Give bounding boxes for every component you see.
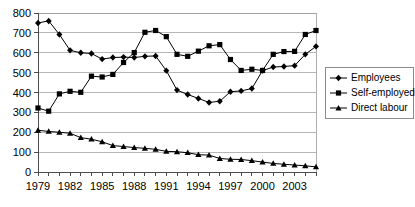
data-point-0-6 (99, 56, 105, 62)
data-point-0-7 (110, 54, 116, 60)
data-point-0-4 (78, 50, 84, 56)
data-point-1-12 (164, 34, 169, 39)
data-point-1-2 (57, 91, 62, 96)
gridlines (38, 13, 316, 152)
series-line-2 (38, 130, 316, 167)
x-tick-label-1985: 1985 (90, 180, 114, 192)
legend-label-2: Direct labour (351, 102, 408, 113)
series-direct-labour (35, 127, 319, 169)
x-tick-label-2000: 2000 (250, 180, 274, 192)
data-point-1-14 (185, 54, 190, 59)
data-point-1-13 (174, 52, 179, 57)
data-point-1-1 (46, 109, 51, 114)
data-series-group (35, 18, 319, 169)
data-point-0-19 (238, 88, 244, 94)
y-axis: 0100200300400500600700800 (13, 7, 38, 178)
y-tick-label-800: 800 (13, 7, 31, 19)
x-tick-label-1994: 1994 (186, 180, 210, 192)
data-point-1-25 (303, 32, 308, 37)
data-point-2-0 (35, 127, 41, 133)
data-point-0-5 (88, 50, 94, 56)
data-point-0-10 (142, 53, 148, 59)
data-point-0-22 (270, 64, 276, 70)
x-tick-label-1988: 1988 (122, 180, 146, 192)
data-point-1-16 (206, 43, 211, 48)
series-line-1 (38, 30, 316, 111)
x-tick-label-1979: 1979 (26, 180, 50, 192)
line-chart: 0100200300400500600700800 19791982198519… (0, 0, 415, 207)
y-tick-label-0: 0 (25, 166, 31, 178)
data-point-1-10 (142, 30, 147, 35)
y-tick-label-500: 500 (13, 67, 31, 79)
data-point-1-11 (153, 28, 158, 33)
data-point-1-7 (110, 72, 115, 77)
data-point-1-24 (292, 49, 297, 54)
data-point-1-18 (228, 57, 233, 62)
data-point-0-8 (121, 54, 127, 60)
y-tick-label-200: 200 (13, 126, 31, 138)
y-tick-label-600: 600 (13, 47, 31, 59)
data-point-0-0 (35, 20, 41, 26)
x-tick-label-1991: 1991 (154, 180, 178, 192)
y-tick-label-400: 400 (13, 87, 31, 99)
data-point-1-22 (271, 52, 276, 57)
data-point-0-20 (249, 85, 255, 91)
x-tick-label-2003: 2003 (282, 180, 306, 192)
data-point-1-21 (260, 68, 265, 73)
data-point-1-0 (35, 105, 40, 110)
x-tick-label-1982: 1982 (58, 180, 82, 192)
data-point-0-16 (206, 99, 212, 105)
data-point-1-19 (239, 68, 244, 73)
data-point-1-5 (89, 74, 94, 79)
data-point-1-8 (121, 60, 126, 65)
data-point-1-9 (132, 50, 137, 55)
chart-canvas: 0100200300400500600700800 19791982198519… (0, 0, 415, 207)
data-point-1-4 (78, 90, 83, 95)
data-point-1-17 (217, 42, 222, 47)
y-tick-label-100: 100 (13, 146, 31, 158)
data-point-1-23 (281, 49, 286, 54)
x-tick-label-1997: 1997 (218, 180, 242, 192)
y-tick-label-300: 300 (13, 106, 31, 118)
legend-label-1: Self-employed (351, 87, 415, 98)
data-point-1-6 (100, 74, 105, 79)
y-tick-label-700: 700 (13, 27, 31, 39)
data-point-1-15 (196, 49, 201, 54)
data-point-0-26 (313, 43, 319, 49)
data-point-1-26 (313, 28, 318, 33)
data-point-0-23 (281, 63, 287, 69)
legend-marker-square-icon (336, 90, 341, 95)
data-point-1-3 (67, 89, 72, 94)
series-self-employed (35, 28, 318, 114)
data-point-0-15 (195, 95, 201, 101)
data-point-0-9 (131, 54, 137, 60)
legend-label-0: Employees (351, 72, 400, 83)
x-axis: 197919821985198819911994199720002003 (26, 172, 316, 192)
data-point-1-20 (249, 67, 254, 72)
chart-legend: EmployeesSelf-employedDirect labour (325, 67, 415, 118)
